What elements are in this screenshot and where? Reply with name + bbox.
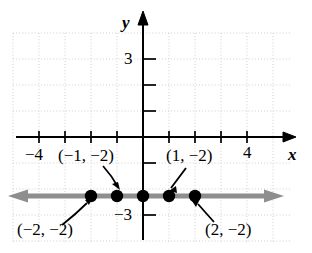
graph-figure: y x 3 −3 −4 4 (−1, −2) (−2, −2) (1, −2) … — [0, 0, 312, 253]
label-2-neg2: (2, −2) — [205, 221, 251, 238]
y-tick-label-3: 3 — [124, 50, 133, 67]
label-neg2-neg2: (−2, −2) — [17, 221, 73, 238]
x-axis-arrowhead — [283, 132, 296, 142]
solution-line-left-arrowhead — [8, 190, 28, 203]
solution-line-right-arrowhead — [264, 190, 284, 203]
x-axis-label: x — [288, 146, 297, 163]
y-axis-label: y — [122, 14, 130, 31]
arrow-to-1-neg2 — [171, 168, 186, 188]
x-tick-label-neg4: −4 — [25, 146, 43, 163]
point-neg1-neg2 — [111, 190, 123, 202]
coordinate-plane-svg — [0, 0, 312, 253]
axes — [16, 11, 296, 240]
label-neg1-neg2: (−1, −2) — [58, 147, 114, 164]
point-2-neg2 — [189, 190, 201, 202]
y-tick-label-neg3: −3 — [114, 206, 132, 223]
x-tick-label-4: 4 — [243, 144, 252, 161]
point-0-neg2 — [137, 190, 149, 202]
label-1-neg2: (1, −2) — [166, 147, 212, 164]
y-axis-arrowhead — [138, 11, 148, 25]
